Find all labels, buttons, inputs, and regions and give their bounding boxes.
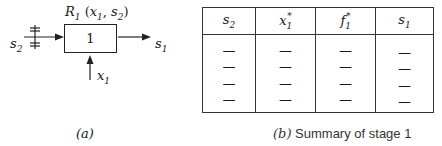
- table-cell: —: [279, 60, 292, 76]
- table-cell: —: [398, 46, 411, 62]
- input-state-label: s2: [10, 37, 22, 54]
- table-cell: —: [339, 44, 352, 60]
- header-x1-star: x1*: [256, 8, 316, 35]
- header-f1-star: f1*: [316, 8, 376, 35]
- header-s2: s2: [203, 8, 256, 35]
- header-s1: s1: [376, 8, 434, 35]
- caption-a: (a): [76, 126, 94, 141]
- column-x1-star-values: — — — —: [256, 35, 316, 113]
- column-s1-values: — — — —: [376, 35, 434, 113]
- stage-summary-table: s2 x1* f1* s1 — — — — — — — — — — —: [202, 7, 434, 113]
- caption-b: (b) Summary of stage 1: [273, 126, 411, 141]
- input-arrowhead-icon: [55, 34, 64, 41]
- return-function-label: R1 (x1, s2): [65, 5, 129, 22]
- table-cell: —: [398, 62, 411, 78]
- table-cell: —: [339, 93, 352, 109]
- stage-number: 1: [86, 31, 94, 46]
- output-arrowhead-icon: [142, 34, 151, 41]
- table-cell: —: [223, 60, 236, 76]
- table-cell: —: [339, 60, 352, 76]
- table-cell: —: [223, 93, 236, 109]
- table-cell: —: [398, 79, 411, 95]
- output-state-label: s1: [155, 37, 167, 54]
- stage-box: 1: [64, 24, 117, 53]
- decision-arrowhead-icon: [87, 55, 94, 64]
- decision-variable-label: x1: [97, 69, 110, 86]
- table-cell: —: [279, 44, 292, 60]
- table-cell: —: [223, 77, 236, 93]
- table-cell: —: [398, 95, 411, 111]
- table-cell: —: [279, 93, 292, 109]
- column-f1-star-values: — — — —: [316, 35, 376, 113]
- header-row: s2 x1* f1* s1: [203, 8, 434, 35]
- table-cell: —: [223, 44, 236, 60]
- column-s2-values: — — — —: [203, 35, 256, 113]
- table-cell: —: [279, 77, 292, 93]
- table-body: — — — — — — — — — — — — — — — —: [203, 35, 434, 113]
- table-cell: —: [339, 77, 352, 93]
